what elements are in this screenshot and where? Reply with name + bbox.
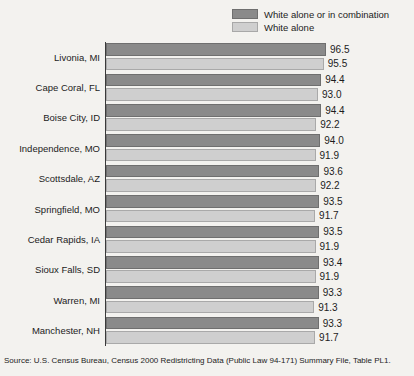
bars-area: 93.391.7 (105, 316, 414, 346)
bar-chart: Livonia, MI96.595.5Cape Coral, FL94.493.… (0, 42, 414, 346)
bar (106, 301, 314, 314)
legend-item: White alone (232, 21, 412, 33)
bar-row: 91.9 (106, 149, 339, 162)
bars-area: 94.492.2 (105, 103, 414, 133)
bars-area: 93.491.9 (105, 255, 414, 285)
category-label: Livonia, MI (0, 52, 105, 63)
bar-value-label: 94.4 (325, 105, 344, 116)
bars-area: 93.591.9 (105, 224, 414, 254)
bar-value-label: 93.5 (323, 226, 342, 237)
category-label: Warren, MI (0, 295, 105, 306)
bar-row: 93.5 (106, 195, 343, 208)
bar-row: 94.4 (106, 104, 345, 117)
legend-item: White alone or in combination (232, 8, 412, 20)
bar-row: 93.3 (106, 286, 342, 299)
bar-row: 93.4 (106, 256, 342, 269)
bar-value-label: 92.2 (320, 180, 339, 191)
bar-group: Scottsdale, AZ93.692.2 (0, 164, 414, 194)
bar-row: 92.2 (106, 179, 340, 192)
bar-value-label: 96.5 (330, 44, 349, 55)
bar-value-label: 94.0 (324, 135, 343, 146)
bar (106, 226, 319, 239)
bar-group: Sioux Falls, SD93.491.9 (0, 255, 414, 285)
bar-row: 91.7 (106, 331, 339, 344)
legend-swatch-icon (232, 22, 258, 32)
bar (106, 88, 318, 101)
bar-row: 91.9 (106, 270, 339, 283)
bar-value-label: 93.3 (323, 318, 342, 329)
bar (106, 104, 321, 117)
bars-area: 94.091.9 (105, 133, 414, 163)
legend-swatch-icon (232, 9, 258, 19)
category-label: Springfield, MO (0, 204, 105, 215)
bar-row: 93.5 (106, 226, 343, 239)
bar-row: 93.0 (106, 88, 342, 101)
bar (106, 331, 315, 344)
bar-row: 91.7 (106, 210, 339, 223)
bar-value-label: 91.9 (320, 150, 339, 161)
bars-area: 96.595.5 (105, 42, 414, 72)
bar (106, 270, 316, 283)
bar-value-label: 91.7 (319, 210, 338, 221)
bars-area: 93.692.2 (105, 164, 414, 194)
bar-value-label: 95.5 (328, 58, 347, 69)
bar (106, 240, 316, 253)
bars-area: 93.591.7 (105, 194, 414, 224)
bar (106, 134, 320, 147)
bar-row: 93.6 (106, 165, 343, 178)
bar (106, 118, 316, 131)
category-label: Cape Coral, FL (0, 82, 105, 93)
bar-row: 95.5 (106, 58, 347, 71)
bars-area: 93.391.3 (105, 285, 414, 315)
source-note: Source: U.S. Census Bureau, Census 2000 … (4, 356, 391, 365)
bar-row: 96.5 (106, 43, 349, 56)
bar-group: Cape Coral, FL94.493.0 (0, 72, 414, 102)
bar-group: Independence, MO94.091.9 (0, 133, 414, 163)
bar-row: 94.0 (106, 134, 344, 147)
chart-legend: White alone or in combinationWhite alone (232, 8, 412, 34)
bar-group: Cedar Rapids, IA93.591.9 (0, 224, 414, 254)
bar-group: Warren, MI93.391.3 (0, 285, 414, 315)
bars-area: 94.493.0 (105, 72, 414, 102)
bar (106, 286, 319, 299)
bar (106, 74, 321, 87)
bar-value-label: 91.9 (320, 241, 339, 252)
bar (106, 317, 319, 330)
bar-value-label: 93.4 (323, 257, 342, 268)
bar (106, 43, 326, 56)
category-label: Independence, MO (0, 143, 105, 154)
bar (106, 58, 324, 71)
category-label: Boise City, ID (0, 112, 105, 123)
bar-value-label: 93.0 (322, 89, 341, 100)
bar (106, 149, 316, 162)
bar-row: 92.2 (106, 118, 340, 131)
legend-item-label: White alone (264, 22, 314, 33)
bar-value-label: 93.6 (323, 166, 342, 177)
bar-value-label: 94.4 (325, 74, 344, 85)
bar-group: Manchester, NH93.391.7 (0, 316, 414, 346)
bar-value-label: 91.9 (320, 271, 339, 282)
bar-value-label: 93.3 (323, 287, 342, 298)
bar-row: 93.3 (106, 317, 342, 330)
bar-row: 91.3 (106, 301, 338, 314)
bar-group: Springfield, MO93.591.7 (0, 194, 414, 224)
bar (106, 179, 316, 192)
bar (106, 195, 319, 208)
bar-group: Livonia, MI96.595.5 (0, 42, 414, 72)
bar (106, 165, 319, 178)
bar (106, 256, 319, 269)
bar (106, 210, 315, 223)
bar-value-label: 92.2 (320, 119, 339, 130)
bar-group: Boise City, ID94.492.2 (0, 103, 414, 133)
bar-row: 91.9 (106, 240, 339, 253)
category-label: Cedar Rapids, IA (0, 234, 105, 245)
legend-item-label: White alone or in combination (264, 9, 389, 20)
category-label: Manchester, NH (0, 325, 105, 336)
bar-value-label: 91.3 (318, 302, 337, 313)
category-label: Scottsdale, AZ (0, 173, 105, 184)
category-label: Sioux Falls, SD (0, 264, 105, 275)
bar-row: 94.4 (106, 74, 345, 87)
bar-value-label: 91.7 (319, 332, 338, 343)
bar-value-label: 93.5 (323, 196, 342, 207)
